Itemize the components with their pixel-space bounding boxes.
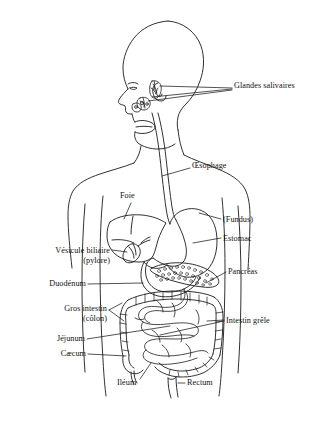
label-caecum: Cæcum xyxy=(16,349,86,359)
label-liver: Foie xyxy=(120,191,135,201)
pancreas xyxy=(150,263,218,288)
label-pancreas: Pancréas xyxy=(228,267,258,277)
label-duodenum: Duodénum xyxy=(16,279,86,289)
salivary-gland-sublingual xyxy=(132,103,141,112)
label-small-intestine: Intestin grêle xyxy=(226,316,270,326)
abdomen-outline xyxy=(82,196,241,396)
label-colon: (côlon) xyxy=(16,314,107,324)
esophagus xyxy=(152,113,176,224)
head-outline xyxy=(123,21,204,130)
label-pylorus: (pylore) xyxy=(16,256,110,266)
label-rectum: Rectum xyxy=(187,378,213,388)
label-stomach-fundus: (Fundus) xyxy=(223,215,253,225)
label-ileum: Iléum xyxy=(117,378,136,388)
eye-brow xyxy=(128,83,138,90)
liver xyxy=(107,215,166,262)
label-large-intestine: Gros intestin xyxy=(16,304,107,314)
label-salivary-glands: Glandes salivaires xyxy=(234,81,295,91)
digestive-system-figure: Glandes salivaires Œsophage Foie (Fundus… xyxy=(0,0,323,421)
label-jejunum: Jéjunum xyxy=(16,334,85,344)
salivary-gland-parotid xyxy=(150,81,162,99)
label-esophagus: Œsophage xyxy=(192,161,227,171)
label-gallbladder: Vésicule biliaire xyxy=(16,246,110,256)
label-stomach: Estomac xyxy=(223,234,252,244)
